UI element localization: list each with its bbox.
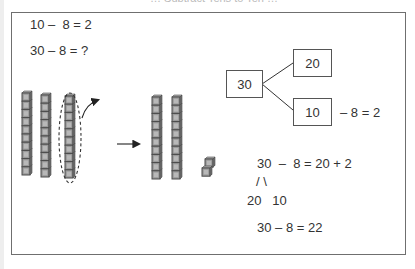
split-parts: 20 10 bbox=[247, 193, 287, 208]
tree-root-box: 30 bbox=[226, 70, 263, 98]
tree-branch-top bbox=[262, 63, 293, 84]
curved-arrow-icon bbox=[82, 100, 98, 118]
start-rod-1 bbox=[22, 91, 32, 175]
result-rod-1 bbox=[152, 95, 162, 179]
tree-bottom-box: 10 bbox=[293, 98, 332, 126]
split-slashes: / \ bbox=[256, 174, 267, 189]
result-rod-2 bbox=[172, 95, 182, 179]
final-answer-equation: 30 – 8 = 22 bbox=[257, 220, 322, 235]
start-rod-3 bbox=[65, 94, 75, 178]
unit-cube-icon bbox=[205, 157, 215, 167]
tree-top-box: 20 bbox=[293, 49, 332, 77]
bottom-branch-note: – 8 = 2 bbox=[340, 105, 380, 120]
decomposition-equation: 30 – 8 = 20 + 2 bbox=[257, 156, 352, 171]
unit-cube-icon bbox=[202, 166, 212, 176]
start-rod-2 bbox=[41, 93, 51, 177]
base-ten-blocks-drawing bbox=[0, 0, 415, 269]
tree-branch-bottom bbox=[262, 84, 293, 110]
